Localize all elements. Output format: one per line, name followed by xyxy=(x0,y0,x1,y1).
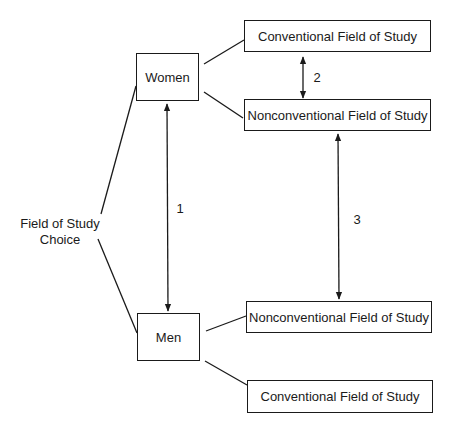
comparison-label-3: 3 xyxy=(352,212,362,228)
women-nonconventional-label: Nonconventional Field of Study xyxy=(248,108,428,123)
comparison-arrow-1 xyxy=(167,104,168,311)
women-nonconventional-node: Nonconventional Field of Study xyxy=(244,99,431,131)
root-label: Field of Study Choice xyxy=(10,216,110,248)
root-label-line1: Field of Study xyxy=(10,216,110,232)
edge-men-to-nonconventional xyxy=(206,316,246,331)
edge-men-to-conventional xyxy=(205,361,247,385)
comparison-arrow-3 xyxy=(338,134,339,299)
edge-root-to-women xyxy=(101,86,136,214)
women-node: Women xyxy=(136,53,199,101)
comparison-label-2: 2 xyxy=(312,70,322,86)
men-label: Men xyxy=(156,330,181,345)
men-conventional-label: Conventional Field of Study xyxy=(261,389,420,404)
root-label-line2: Choice xyxy=(10,232,110,248)
men-node: Men xyxy=(137,313,200,361)
women-conventional-node: Conventional Field of Study xyxy=(244,20,431,52)
edge-root-to-men xyxy=(98,239,137,333)
edge-women-to-conventional xyxy=(204,40,244,64)
men-conventional-node: Conventional Field of Study xyxy=(247,380,433,413)
men-nonconventional-label: Nonconventional Field of Study xyxy=(249,310,429,325)
women-label: Women xyxy=(145,70,190,85)
comparison-label-1: 1 xyxy=(175,201,185,217)
women-conventional-label: Conventional Field of Study xyxy=(258,29,417,44)
edge-women-to-nonconventional xyxy=(204,92,243,118)
men-nonconventional-node: Nonconventional Field of Study xyxy=(246,301,432,333)
